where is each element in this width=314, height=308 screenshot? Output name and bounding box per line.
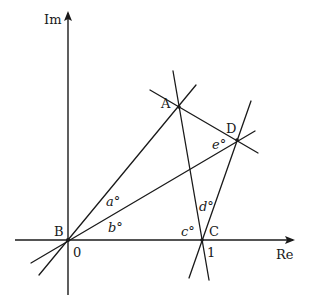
- angle-c-label: c°: [181, 224, 195, 239]
- point-d-label: D: [226, 121, 236, 136]
- angle-b-label: b°: [108, 220, 123, 235]
- line-cd: [189, 101, 251, 278]
- point-b-dot: [66, 238, 70, 242]
- unit-tick-label: 1: [207, 245, 215, 260]
- point-b-label: B: [54, 224, 64, 239]
- point-d-dot: [235, 138, 239, 142]
- angle-a-label: a°: [106, 194, 120, 209]
- point-c-dot: [200, 238, 204, 242]
- imaginary-axis-label: Im: [44, 12, 61, 27]
- point-a-label: A: [160, 96, 171, 111]
- point-a-dot: [177, 105, 181, 109]
- origin-tick-label: 0: [73, 245, 81, 260]
- point-c-label: C: [209, 224, 219, 239]
- angle-e-label: e°: [212, 137, 226, 152]
- real-axis-label: Re: [276, 247, 294, 262]
- angle-d-label: d°: [199, 199, 214, 214]
- complex-plane-diagram: Im Re 0 1 A B C D a° b° c° d° e°: [0, 0, 314, 308]
